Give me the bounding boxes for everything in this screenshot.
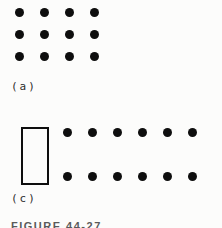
dot <box>40 30 49 39</box>
dot <box>90 8 99 17</box>
part-label-a: (a) <box>11 80 37 93</box>
dot <box>65 52 74 61</box>
dot <box>65 8 74 17</box>
dot <box>40 52 49 61</box>
dot <box>90 30 99 39</box>
dot <box>63 172 72 181</box>
dot <box>63 128 72 137</box>
dot <box>65 30 74 39</box>
dot <box>40 8 49 17</box>
dot <box>138 172 147 181</box>
dot <box>88 172 97 181</box>
dot <box>113 172 122 181</box>
part-label-c: (c) <box>11 192 37 205</box>
figure-caption: FIGURE 44-27 <box>11 220 102 228</box>
dot <box>163 128 172 137</box>
dot <box>138 128 147 137</box>
dot <box>90 52 99 61</box>
outline-rectangle <box>21 127 49 185</box>
dot <box>15 30 24 39</box>
dot-array-a <box>15 8 115 74</box>
dot <box>15 52 24 61</box>
dot-array-c <box>63 128 213 216</box>
dot <box>88 128 97 137</box>
dot <box>188 172 197 181</box>
textbook-figure-page: (a) (c) FIGURE 44-27 <box>0 0 222 228</box>
dot <box>188 128 197 137</box>
dot <box>113 128 122 137</box>
dot <box>15 8 24 17</box>
dot <box>163 172 172 181</box>
